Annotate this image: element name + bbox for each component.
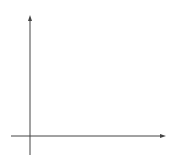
- y-axis-arrow-icon: [28, 15, 32, 21]
- graph: [0, 0, 175, 166]
- axes: [11, 15, 166, 155]
- x-axis-arrow-icon: [160, 134, 166, 138]
